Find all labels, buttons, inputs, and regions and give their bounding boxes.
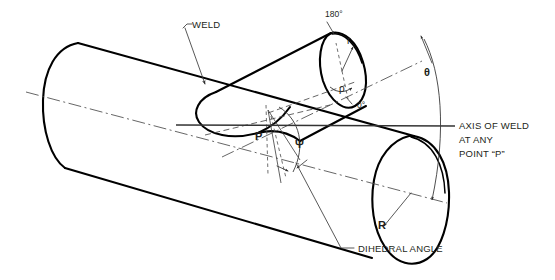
angle-0-label: 0°	[357, 100, 365, 110]
weld-label: WELD	[192, 19, 220, 30]
axis-of-weld-rule	[176, 125, 455, 126]
branch-lower-generatrix	[300, 106, 366, 141]
rho-label: ρ	[339, 83, 345, 94]
construction-dash-p-vertical	[266, 105, 268, 175]
branch-upper-generatrix	[216, 33, 331, 92]
axis-of-weld-line-1: AXIS OF WELD	[459, 120, 529, 131]
axis-of-weld-line-3: POINT “P”	[459, 148, 505, 159]
weld-leader-hook-icon	[183, 24, 192, 28]
header-radius-R-label: R	[378, 219, 386, 231]
header-axis-centerline	[26, 92, 447, 203]
angle-180-label: 180°	[325, 9, 343, 19]
header-radius-R-arrow	[384, 193, 411, 226]
diagram-root: WELD 180° 0° r ρ θ P Ψ R AXIS OF WELD AT…	[0, 0, 555, 280]
point-p-label: P	[255, 130, 262, 142]
header-radius-group	[384, 193, 411, 226]
angle-0-tick	[346, 97, 352, 104]
theta-angle-group	[421, 36, 441, 200]
psi-label: Ψ	[295, 138, 304, 150]
branch-radius-r-arrow	[342, 47, 353, 71]
theta-arrow-upper	[421, 36, 432, 63]
axis-of-weld-group	[176, 125, 455, 126]
theta-label: θ	[424, 66, 430, 78]
weld-dihedral-angle-diagram: WELD 180° 0° r ρ θ P Ψ R AXIS OF WELD AT…	[0, 0, 555, 280]
psi-angle-group	[268, 107, 354, 248]
dihedral-angle-label: DIHEDRAL ANGLE	[358, 243, 443, 254]
header-left-end-cap	[43, 43, 78, 168]
axis-of-weld-line-2: AT ANY	[459, 134, 494, 145]
header-bottom-generatrix	[65, 168, 372, 258]
psi-tangent-left	[268, 110, 281, 183]
branch-end-ellipse	[320, 33, 366, 108]
branch-face-spoke-up	[336, 43, 342, 71]
